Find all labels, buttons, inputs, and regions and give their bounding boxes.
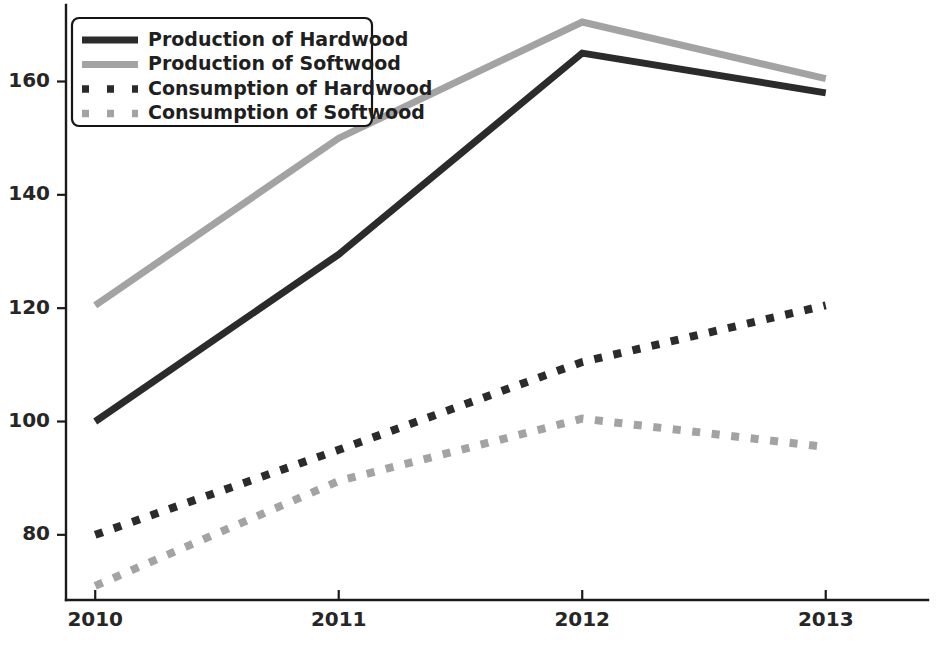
x-tick-label: 2010	[67, 607, 123, 631]
y-tick-label: 80	[22, 521, 50, 545]
legend-label-3: Consumption of Softwood	[148, 101, 425, 123]
y-tick-label: 160	[8, 68, 50, 92]
y-tick-label: 100	[8, 408, 50, 432]
line-chart: 80100120140160 2010201120122013 Producti…	[0, 0, 947, 656]
x-tick-label: 2012	[554, 607, 610, 631]
x-tick-label: 2013	[798, 607, 854, 631]
x-tick-label: 2011	[311, 607, 367, 631]
y-tick-label: 120	[8, 295, 50, 319]
legend-label-1: Production of Softwood	[148, 52, 401, 74]
y-tick-label: 140	[8, 181, 50, 205]
legend-label-0: Production of Hardwood	[148, 28, 408, 50]
legend-label-2: Consumption of Hardwood	[148, 77, 432, 99]
chart-legend: Production of HardwoodProduction of Soft…	[72, 18, 432, 126]
chart-canvas: 80100120140160 2010201120122013 Producti…	[0, 0, 947, 656]
